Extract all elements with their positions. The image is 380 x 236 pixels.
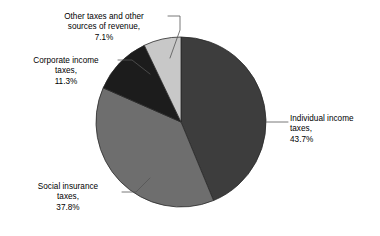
pie-chart: Other taxes and other sources of revenue… xyxy=(0,0,380,236)
pie-label-other-taxes-and-other-sources-of-revenue: Other taxes and other sources of revenue… xyxy=(38,12,170,43)
pie-label-individual-income-taxes: Individual income taxes, 43.7% xyxy=(290,114,378,145)
pie-label-social-insurance-taxes: Social insurance taxes, 37.8% xyxy=(14,182,122,213)
pie-label-corporate-income-taxes: Corporate income taxes, 11.3% xyxy=(12,56,120,87)
